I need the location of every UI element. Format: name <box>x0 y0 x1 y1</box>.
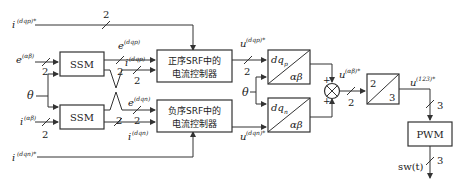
bus-width-label: 2 <box>42 129 48 140</box>
svg-text:(123)*: (123)* <box>416 75 435 82</box>
park-n-bottom-label: αβ <box>290 119 303 130</box>
bus-width-label: 2 <box>134 115 140 126</box>
svg-text:dq: dq <box>271 102 284 113</box>
e-dqp-label: e (dqp) <box>118 38 141 51</box>
u-dqn-label: u (dqn)* <box>240 129 265 142</box>
control-block-diagram: i (dqp)* e (αβ) θ i (αβ) i (dqn)* 2 2 SS… <box>0 0 465 181</box>
pos-ctrl-label-1: 正序SRF中的 <box>168 55 221 66</box>
bus-width-label: 3 <box>437 155 443 166</box>
neg-ctrl-label-2: 电流控制器 <box>172 118 217 129</box>
park-p-bottom-label: αβ <box>290 71 303 82</box>
bus-width-label: 2 <box>244 66 250 77</box>
i-dqp-label: i (dqp) <box>125 55 146 68</box>
e-dqn-label: e (dqn) <box>128 95 151 108</box>
svg-text:i: i <box>12 152 15 163</box>
wire-i-dqp-ref <box>35 25 193 50</box>
bus-width-label: 3 <box>437 100 443 111</box>
bus-width-label: 2 <box>103 9 109 20</box>
clarke-top-label: 2 <box>370 78 376 89</box>
svg-text:(dqn): (dqn) <box>134 95 151 103</box>
svg-text:(dqp): (dqp) <box>124 38 141 46</box>
u-dqp-label: u (dqp)* <box>240 36 265 49</box>
svg-text:(αβ)*: (αβ)* <box>345 67 360 75</box>
bus-width-label: 2 <box>348 97 354 108</box>
svg-text:p: p <box>284 60 288 68</box>
ssm-top-label: SSM <box>70 59 94 70</box>
bus-width-label: 2 <box>42 66 48 77</box>
wire-i-dqp <box>104 70 155 88</box>
svg-text:(dqp): (dqp) <box>129 55 146 63</box>
pwm-label: PWM <box>416 129 443 140</box>
input-e-ab-label: e (αβ) <box>16 52 35 65</box>
sw-output-label: sw(t) <box>398 161 424 172</box>
u-ab-label: u (αβ)* <box>339 67 360 80</box>
svg-text:(dqn)*: (dqn)* <box>246 129 265 137</box>
svg-text:(dqp)*: (dqp)* <box>246 36 265 44</box>
svg-text:(αβ): (αβ) <box>22 52 35 60</box>
svg-text:(dqn): (dqn) <box>132 129 149 137</box>
input-i-dqp-ref-label: i (dqp)* <box>12 17 36 30</box>
ssm-bottom-label: SSM <box>70 112 94 123</box>
svg-text:(dqp)*: (dqp)* <box>17 17 36 25</box>
svg-text:i: i <box>128 131 131 142</box>
theta-park-label: θ <box>242 86 249 99</box>
input-i-dqn-ref-label: i (dqn)* <box>12 150 36 163</box>
svg-text:(dqn)*: (dqn)* <box>17 150 36 158</box>
clarke-bottom-label: 3 <box>389 92 395 103</box>
input-i-ab-label: i (αβ) <box>20 114 37 127</box>
wire-theta-ssm-bottom <box>48 96 58 107</box>
i-dqn-label: i (dqn) <box>128 129 149 142</box>
svg-text:i: i <box>20 116 23 127</box>
neg-ctrl-label-1: 负序SRF中的 <box>168 105 221 116</box>
wire-u-123 <box>399 89 430 120</box>
summing-junction <box>325 84 340 99</box>
wire-theta-ssm-top <box>36 74 58 96</box>
svg-text:n: n <box>284 108 288 115</box>
pos-ctrl-label-2: 电流控制器 <box>172 68 217 79</box>
input-theta-label: θ <box>27 89 34 102</box>
svg-text:dq: dq <box>271 54 284 65</box>
wire-theta-park-n <box>256 92 266 104</box>
svg-text:i: i <box>12 19 15 30</box>
wire-theta-park-p <box>250 77 266 92</box>
wire-i-dqn-ref <box>37 132 193 157</box>
bus-width-label: 2 <box>116 115 122 126</box>
bus-width-label: 2 <box>134 75 140 86</box>
svg-text:i: i <box>125 57 128 68</box>
svg-text:(αβ): (αβ) <box>24 114 37 122</box>
u-123-label: u (123)* <box>410 75 435 88</box>
